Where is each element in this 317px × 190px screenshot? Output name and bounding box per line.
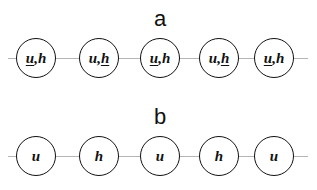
panel-a-node-1: u,h: [16, 38, 56, 78]
panel-b-node-5: u: [254, 136, 294, 176]
panel-a-label: a: [154, 8, 166, 30]
panel-b-node-1: u: [16, 136, 56, 176]
panel-a-node-4: u,h: [199, 38, 239, 78]
panel-a-node-5: u,h: [254, 38, 294, 78]
node-label: u,h: [209, 50, 229, 67]
node-label: u,h: [150, 50, 170, 67]
node-label: u: [270, 148, 278, 165]
node-label: u,h: [26, 50, 46, 67]
panel-a-node-3: u,h: [140, 38, 180, 78]
node-label: h: [95, 148, 103, 165]
node-label: h: [215, 148, 223, 165]
node-label: u: [156, 148, 164, 165]
node-label: u,h: [89, 50, 109, 67]
panel-b-node-2: h: [79, 136, 119, 176]
panel-b-label: b: [154, 106, 166, 128]
node-label: u,h: [264, 50, 284, 67]
panel-a-node-2: u,h: [79, 38, 119, 78]
panel-b-node-3: u: [140, 136, 180, 176]
panel-b-node-4: h: [199, 136, 239, 176]
node-label: u: [32, 148, 40, 165]
